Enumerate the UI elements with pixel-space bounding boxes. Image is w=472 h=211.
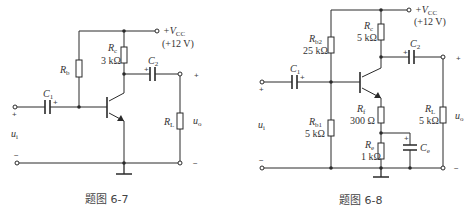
output-voltage-label: uo — [193, 115, 202, 128]
input-voltage-label: ui — [258, 119, 265, 132]
svg-text:+: + — [456, 54, 461, 63]
rb2-value: 25 kΩ — [303, 45, 328, 56]
rl-value: 5 kΩ — [419, 115, 439, 126]
vcc-value: (+12 V) — [414, 16, 446, 28]
svg-text:+: + — [404, 134, 409, 143]
c2-label: C2 — [148, 55, 159, 68]
resistor-rf — [378, 107, 384, 123]
input-terminal-minus — [260, 166, 264, 170]
svg-text:+: + — [259, 85, 264, 94]
capacitor-ce — [403, 145, 417, 150]
ground-icon — [373, 168, 389, 177]
rc-value: 5 kΩ — [357, 32, 377, 43]
rb-label: Rb — [59, 64, 70, 77]
input-terminal-plus — [260, 80, 264, 84]
svg-text:+: + — [144, 65, 149, 74]
figure-caption: 题图 6-7 — [85, 193, 128, 206]
input-terminal-minus — [15, 161, 19, 165]
resistor-rb1 — [328, 120, 334, 136]
resistor-rb2 — [328, 37, 334, 53]
c2-label: C2 — [410, 38, 421, 51]
svg-text:−: − — [454, 164, 459, 173]
figure-caption: 题图 6-8 — [339, 194, 382, 207]
capacitor-c2 — [409, 50, 414, 64]
rf-value: 300 Ω — [350, 115, 375, 126]
capacitor-c1 — [45, 100, 50, 114]
npn-transistor-icon — [360, 72, 381, 107]
output-voltage-label: uo — [455, 110, 464, 123]
resistor-rc — [121, 47, 127, 63]
npn-transistor-icon — [107, 97, 124, 163]
resistor-rl — [177, 113, 183, 129]
rb1-value: 5 kΩ — [305, 128, 325, 139]
svg-text:+: + — [194, 71, 199, 80]
svg-text:−: − — [193, 159, 198, 168]
figure-6-8: +VCC (+12 V) Rb2 25 kΩ Rc 5 kΩ + C2 + + … — [258, 4, 464, 207]
c1-label: C1 — [290, 63, 301, 76]
output-terminal-minus — [441, 166, 445, 170]
input-terminal-plus — [13, 105, 17, 109]
vcc-value: (+12 V) — [162, 38, 194, 50]
capacitor-c2 — [150, 67, 155, 81]
vcc-terminal — [155, 29, 159, 33]
ce-label: Ce — [420, 142, 430, 155]
svg-text:+: + — [12, 110, 17, 119]
resistor-rb — [76, 60, 82, 77]
output-terminal-plus — [441, 55, 445, 59]
vcc-label: +VCC — [163, 25, 186, 38]
capacitor-c1 — [292, 75, 297, 89]
svg-text:−: − — [259, 156, 264, 165]
ground-icon — [116, 163, 132, 174]
figure-6-7: +VCC (+12 V) Rb Rc 3 kΩ + C2 + + + C1 — [11, 25, 202, 206]
input-voltage-label: ui — [11, 128, 18, 141]
svg-text:+: + — [53, 98, 58, 107]
re-value: 1 kΩ — [361, 151, 381, 162]
resistor-rc — [378, 24, 384, 40]
resistor-rl — [440, 107, 446, 123]
svg-text:+: + — [403, 48, 408, 57]
c1-label: C1 — [43, 88, 54, 101]
rl-label: RL — [163, 116, 174, 129]
vcc-terminal — [407, 8, 411, 12]
svg-text:+: + — [300, 73, 305, 82]
circuit-diagrams: +VCC (+12 V) Rb Rc 3 kΩ + C2 + + + C1 — [0, 0, 472, 211]
rc-label: Rc — [107, 42, 117, 55]
svg-text:−: − — [14, 151, 19, 160]
output-terminal-minus — [178, 161, 182, 165]
rc-value: 3 kΩ — [101, 55, 121, 66]
output-terminal-plus — [178, 72, 182, 76]
